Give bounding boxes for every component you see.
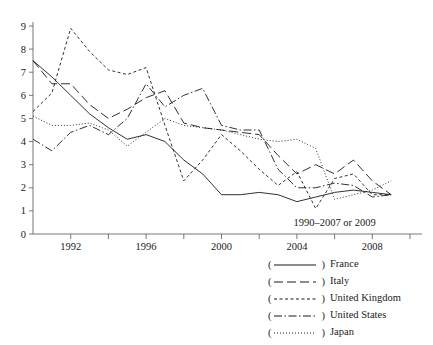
legend-label: United Kingdom [330,293,401,304]
legend-close-paren: ) [322,276,326,287]
y-tick-label: 2 [21,182,26,193]
legend: ()France()Italy()United Kingdom()United … [268,256,433,344]
x-tick-label: 2000 [211,241,232,250]
y-tick-label: 0 [21,229,26,240]
series-line-united-states [33,84,391,197]
y-tick-label: 5 [21,113,26,124]
y-tick-label: 7 [21,67,26,78]
y-axis: 0123456789 [21,21,33,240]
legend-close-paren: ) [322,310,326,321]
x-tick-label: 1996 [136,241,157,250]
legend-item-united-kingdom[interactable]: ()United Kingdom [268,290,433,307]
x-tick-label: 2008 [362,241,383,250]
series-line-france [33,61,391,202]
x-tick-label: 2004 [286,241,308,250]
legend-label: Italy [330,276,349,287]
y-tick-label: 3 [21,159,26,170]
y-tick-label: 9 [21,21,26,32]
legend-item-france[interactable]: ()France [268,256,433,273]
legend-line-swatch [272,292,318,306]
legend-item-united-states[interactable]: ()United States [268,307,433,324]
legend-line-swatch [272,326,318,340]
x-tick-label: 1992 [60,241,81,250]
y-tick-label: 1 [21,205,26,216]
legend-item-japan[interactable]: ()Japan [268,324,433,341]
legend-close-paren: ) [322,327,326,338]
legend-line-swatch [272,258,318,272]
series-line-united-kingdom [33,28,391,208]
y-tick-label: 8 [21,44,26,55]
legend-close-paren: ) [322,293,326,304]
chart-page: 0123456789 19921996200020042008 1990–200… [0,0,433,345]
series-lines [33,28,391,208]
legend-line-swatch [272,309,318,323]
y-tick-label: 4 [21,136,27,147]
series-line-italy [33,61,391,195]
x-axis-caption: 1990–2007 or 2009 [293,217,375,228]
legend-label: Japan [330,327,354,338]
legend-item-italy[interactable]: ()Italy [268,273,433,290]
legend-label: France [330,259,359,270]
legend-line-swatch [272,275,318,289]
legend-label: United States [330,310,386,321]
legend-close-paren: ) [322,259,326,270]
x-axis: 19921996200020042008 [33,234,422,250]
y-tick-label: 6 [21,90,26,101]
line-chart: 0123456789 19921996200020042008 1990–200… [0,0,433,250]
